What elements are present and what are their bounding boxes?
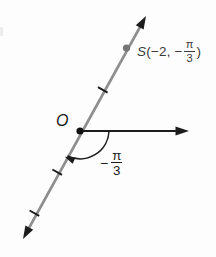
edge-artifact xyxy=(0,27,3,36)
point-label: S (−2, − π 3 ) xyxy=(137,40,201,63)
polar-diagram: O S (−2, − π 3 ) − π 3 xyxy=(0,0,216,257)
angle-label: − π 3 xyxy=(100,147,124,179)
origin-label: O xyxy=(56,113,68,129)
line-arrowhead-up-icon xyxy=(136,16,146,30)
angle-sign: − xyxy=(100,156,108,170)
terminal-line xyxy=(27,23,143,233)
origin-point xyxy=(76,127,83,134)
line-arrowhead-down-icon xyxy=(23,225,33,239)
origin-label-text: O xyxy=(56,113,68,129)
point-coords-close: ) xyxy=(197,45,202,59)
point-s-dot xyxy=(123,44,130,51)
angle-fraction: π 3 xyxy=(110,149,123,178)
point-coords-open: (−2, − xyxy=(146,45,182,59)
point-fraction: π 3 xyxy=(184,39,196,63)
axis-arrowhead-icon xyxy=(176,127,190,136)
point-name: S xyxy=(137,45,146,59)
